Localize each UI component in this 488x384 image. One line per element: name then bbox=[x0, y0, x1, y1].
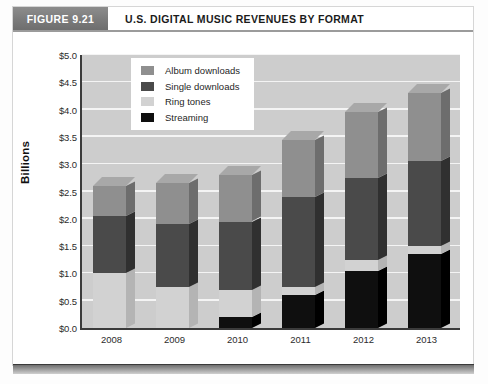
bar-segment-side bbox=[315, 291, 324, 328]
gridline bbox=[82, 163, 460, 165]
y-axis-tick-label: $2.5 bbox=[41, 186, 77, 197]
y-axis-tick-label: $5.0 bbox=[41, 50, 77, 61]
y-axis-tick-labels: $0.0$0.5$1.0$1.5$2.0$2.5$3.0$3.5$4.0$4.5… bbox=[41, 34, 77, 364]
bar-segment bbox=[93, 216, 126, 273]
bar-segment bbox=[156, 287, 189, 328]
x-axis-tick-labels: 200820092010201120122013 bbox=[80, 334, 458, 354]
x-axis-tick-label: 2010 bbox=[227, 334, 248, 345]
y-axis-tick-label: $3.5 bbox=[41, 131, 77, 142]
bar-segment bbox=[408, 246, 441, 254]
bar-segment bbox=[345, 112, 378, 178]
bar-segment-face bbox=[408, 254, 441, 328]
bar-segment bbox=[282, 287, 315, 295]
figure-screenshot: FIGURE 9.21 U.S. DIGITAL MUSIC REVENUES … bbox=[0, 0, 488, 384]
bar-segment-face bbox=[93, 216, 126, 273]
legend-swatch bbox=[141, 113, 154, 122]
figure-number-tag: FIGURE 9.21 bbox=[13, 7, 108, 30]
y-axis-tick-label: $0.5 bbox=[41, 295, 77, 306]
bar-segment-side bbox=[441, 250, 450, 328]
gridline bbox=[82, 245, 460, 247]
bar-segment bbox=[219, 175, 252, 221]
bar-segment bbox=[156, 224, 189, 287]
bar-column bbox=[345, 55, 378, 328]
bar-segment-face bbox=[408, 93, 441, 161]
bar-segment-side bbox=[441, 157, 450, 246]
bar-segment bbox=[408, 254, 441, 328]
bar-segment-side bbox=[315, 135, 324, 197]
x-axis-tick-label: 2011 bbox=[290, 334, 310, 345]
gridline bbox=[82, 272, 460, 274]
figure-foot-bar bbox=[13, 365, 474, 374]
y-axis-tick-label: $3.0 bbox=[41, 159, 77, 170]
gridline bbox=[82, 135, 460, 137]
bar-segment bbox=[93, 186, 126, 216]
bar-segment-face bbox=[219, 290, 252, 317]
chart: Billions $0.0$0.5$1.0$1.5$2.0$2.5$3.0$3.… bbox=[13, 34, 473, 364]
gridline bbox=[82, 190, 460, 192]
bar-segment-face bbox=[345, 178, 378, 260]
bar-segment-side bbox=[378, 173, 387, 259]
bar-segment bbox=[219, 222, 252, 290]
bar-segment-face bbox=[93, 273, 126, 328]
bar-segment-side bbox=[126, 182, 135, 216]
bar-segment bbox=[93, 273, 126, 328]
bar-segment-side bbox=[189, 283, 198, 328]
bar-segment bbox=[282, 295, 315, 328]
bar-segment-face bbox=[282, 197, 315, 287]
bar-segment-face bbox=[282, 295, 315, 328]
bar-segment-side bbox=[189, 220, 198, 287]
bar-segment bbox=[156, 183, 189, 224]
bar-segment bbox=[345, 260, 378, 271]
bar-segment bbox=[219, 317, 252, 328]
bar-segment-side bbox=[126, 212, 135, 274]
bar-segment-face bbox=[156, 183, 189, 224]
legend-swatch bbox=[141, 97, 154, 106]
bar-segment-face bbox=[345, 271, 378, 328]
bar-segment bbox=[219, 290, 252, 317]
legend-swatch bbox=[141, 66, 154, 75]
bar-column bbox=[93, 55, 126, 328]
bar-segment-side bbox=[252, 217, 261, 290]
bar-segment-side bbox=[252, 285, 261, 317]
bar-segment-face bbox=[408, 161, 441, 246]
y-axis-title: Billions bbox=[19, 141, 31, 184]
bar-segment bbox=[282, 197, 315, 287]
bar-segment-face bbox=[282, 287, 315, 295]
bar-segment-face bbox=[408, 246, 441, 254]
bar-segment-face bbox=[219, 175, 252, 221]
figure-title: U.S. DIGITAL MUSIC REVENUES BY FORMAT bbox=[108, 7, 473, 30]
y-axis-tick-label: $0.0 bbox=[41, 323, 77, 334]
legend-swatch bbox=[141, 82, 154, 91]
bar-segment bbox=[345, 271, 378, 328]
x-axis-tick-label: 2008 bbox=[101, 334, 122, 345]
bar-segment-side bbox=[252, 171, 261, 222]
figure-header: FIGURE 9.21 U.S. DIGITAL MUSIC REVENUES … bbox=[13, 7, 473, 30]
bar-segment bbox=[408, 93, 441, 161]
gridline bbox=[82, 299, 460, 301]
bar-segment-side bbox=[189, 179, 198, 224]
bar-segment-face bbox=[156, 224, 189, 287]
bar-column bbox=[408, 55, 441, 328]
y-axis-tick-label: $1.5 bbox=[41, 241, 77, 252]
y-axis-tick-label: $4.0 bbox=[41, 104, 77, 115]
bar-segment-side bbox=[315, 193, 324, 287]
bar-column bbox=[219, 55, 252, 328]
bar-segment-side bbox=[441, 89, 450, 162]
bar-segment-face bbox=[345, 260, 378, 271]
bar-column bbox=[156, 55, 189, 328]
x-axis-tick-label: 2009 bbox=[164, 334, 185, 345]
y-axis-tick-label: $1.0 bbox=[41, 268, 77, 279]
bar-segment-side bbox=[126, 269, 135, 328]
x-axis-tick-label: 2012 bbox=[353, 334, 374, 345]
bar-segment bbox=[408, 161, 441, 246]
bar-segment-face bbox=[345, 112, 378, 178]
gridline bbox=[82, 217, 460, 219]
x-axis-tick-label: 2013 bbox=[416, 334, 437, 345]
bar-segment-side bbox=[378, 108, 387, 178]
bar-segment-face bbox=[93, 186, 126, 216]
bar-segment-face bbox=[219, 317, 252, 328]
bar-segment bbox=[345, 178, 378, 260]
bar-segment-face bbox=[219, 222, 252, 290]
bar-column bbox=[282, 55, 315, 328]
bar-segment-side bbox=[378, 266, 387, 328]
